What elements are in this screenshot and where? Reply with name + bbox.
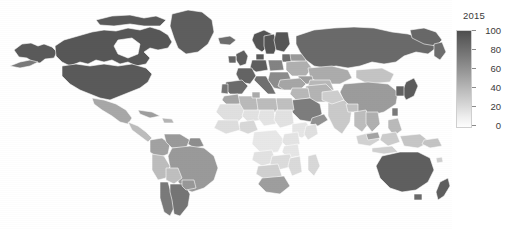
colorbar-tick-80: 80 [472, 44, 501, 55]
country-shape-nepal-bangladesh [346, 104, 358, 112]
colorbar-tick-label: 60 [479, 63, 501, 74]
colorbar-tick-label: 0 [479, 120, 501, 131]
country-shape-tasmania [414, 194, 422, 200]
colorbar-gradient [456, 30, 472, 128]
choropleth-figure: 2015 100 80 60 40 20 [0, 0, 510, 229]
world-map-svg [0, 0, 452, 229]
tick-mark-icon [472, 68, 476, 69]
country-shape-korea [396, 86, 404, 96]
colorbar-tick-20: 20 [472, 101, 501, 112]
country-shape-portugal [221, 84, 228, 94]
country-shape-tunisia [252, 92, 260, 98]
tick-mark-icon [472, 49, 476, 50]
colorbar-tick-60: 60 [472, 63, 501, 74]
country-shape-paraguay-uruguay [182, 180, 196, 190]
country-shape-pacific-islands [436, 157, 443, 163]
tick-mark-icon [472, 125, 476, 126]
world-map [0, 0, 452, 229]
colorbar-tick-list: 100 80 60 40 20 0 [472, 24, 510, 134]
country-shape-taiwan [392, 108, 398, 116]
colorbar-tick-label: 20 [479, 101, 501, 112]
colorbar-tick-label: 80 [479, 44, 501, 55]
colorbar-tick-label: 100 [479, 25, 501, 36]
country-shape-ireland [228, 56, 236, 63]
tick-mark-icon [472, 87, 476, 88]
colorbar-gradient-wrapper [456, 30, 472, 128]
country-shape-hispaniola [162, 118, 174, 123]
colorbar-tick-40: 40 [472, 82, 501, 93]
tick-mark-icon [472, 30, 476, 31]
colorbar-tick-label: 40 [479, 82, 501, 93]
country-shape-denmark [256, 54, 264, 60]
colorbar-tick-0: 0 [472, 120, 501, 131]
country-shape-poland [268, 60, 284, 71]
tick-mark-icon [472, 106, 476, 107]
legend-title: 2015 [454, 10, 494, 21]
colorbar-legend: 2015 100 80 60 40 20 [452, 4, 510, 136]
colorbar-tick-100: 100 [472, 25, 501, 36]
